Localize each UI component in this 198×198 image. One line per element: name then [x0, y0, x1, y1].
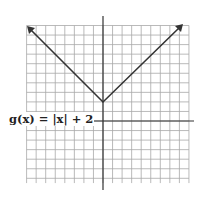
function-curve: [30, 27, 180, 102]
coordinate-plane: [0, 0, 198, 198]
graph: g(x) = |x| + 2: [0, 0, 198, 198]
function-label: g(x) = |x| + 2: [8, 112, 94, 126]
